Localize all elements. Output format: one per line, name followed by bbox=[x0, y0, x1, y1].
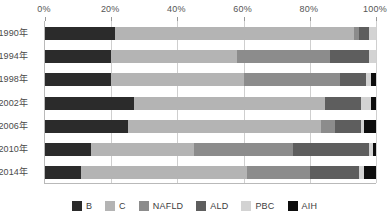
bar-segment-b bbox=[45, 120, 128, 133]
bar-segment-c bbox=[128, 120, 322, 133]
bar-segment-b bbox=[45, 97, 134, 110]
bar-segment-ald bbox=[359, 27, 369, 40]
bar-row: 1994年 bbox=[45, 50, 376, 63]
stacked-bar bbox=[45, 97, 376, 110]
x-tick-label: 20% bbox=[101, 4, 120, 14]
bar-segment-nafld bbox=[247, 166, 310, 179]
bar-segment-ald bbox=[325, 97, 361, 110]
x-tick-label: 100% bbox=[363, 4, 387, 14]
bar-segment-ald bbox=[293, 143, 369, 156]
bar-segment-b bbox=[45, 166, 81, 179]
gridline bbox=[376, 21, 377, 183]
bar-segment-ald bbox=[310, 166, 360, 179]
legend-item-b[interactable]: B bbox=[72, 201, 92, 211]
x-tick-label: 60% bbox=[233, 4, 252, 14]
bar-segment-c bbox=[81, 166, 247, 179]
legend-label: B bbox=[86, 201, 92, 211]
bar-segment-c bbox=[134, 97, 324, 110]
legend-swatch-aih-icon bbox=[288, 201, 298, 211]
bar-segment-ald bbox=[330, 50, 370, 63]
y-axis-category-label: 2002年 bbox=[0, 98, 28, 109]
bar-segment-aih bbox=[371, 73, 376, 86]
bar-segment-nafld bbox=[237, 50, 330, 63]
bar-segment-ald bbox=[340, 73, 366, 86]
bar-segment-pbc bbox=[361, 97, 371, 110]
stacked-bar bbox=[45, 166, 376, 179]
y-axis-category-label: 2010年 bbox=[0, 144, 28, 155]
legend-item-pbc[interactable]: PBC bbox=[241, 201, 274, 211]
x-tick-mark bbox=[376, 17, 377, 21]
bar-row: 2006年 bbox=[45, 120, 376, 133]
x-tick-mark bbox=[244, 17, 245, 21]
bar-segment-b bbox=[45, 73, 111, 86]
y-axis-category-label: 1990年 bbox=[0, 28, 28, 39]
stacked-bar-chart: 0%20%40%60%80%100% 1990年1994年1998年2002年2… bbox=[0, 0, 389, 223]
bar-segment-pbc bbox=[369, 27, 376, 40]
legend-item-c[interactable]: C bbox=[105, 201, 126, 211]
legend-item-aih[interactable]: AIH bbox=[288, 201, 318, 211]
y-axis-category-label: 1998年 bbox=[0, 74, 28, 85]
bar-row: 1998年 bbox=[45, 73, 376, 86]
legend-label: C bbox=[119, 201, 126, 211]
x-tick-mark bbox=[45, 17, 46, 21]
bar-segment-nafld bbox=[321, 120, 334, 133]
bar-segment-b bbox=[45, 143, 91, 156]
legend-label: ALD bbox=[210, 201, 228, 211]
bar-segment-aih bbox=[364, 120, 376, 133]
x-tick-mark bbox=[310, 17, 311, 21]
plot-bottom-rule bbox=[44, 183, 376, 184]
bar-segment-nafld bbox=[194, 143, 293, 156]
bar-row: 2010年 bbox=[45, 143, 376, 156]
bar-row: 1990年 bbox=[45, 27, 376, 40]
plot-area: 1990年1994年1998年2002年2006年2010年2014年 bbox=[44, 21, 376, 183]
bar-segment-c bbox=[111, 50, 237, 63]
legend-swatch-c-icon bbox=[105, 201, 115, 211]
legend-swatch-b-icon bbox=[72, 201, 82, 211]
bar-row: 2014年 bbox=[45, 166, 376, 179]
chart-legend: BCNAFLDALDPBCAIH bbox=[0, 196, 389, 216]
x-tick-mark bbox=[177, 17, 178, 21]
stacked-bar bbox=[45, 120, 376, 133]
stacked-bar bbox=[45, 73, 376, 86]
bar-segment-aih bbox=[371, 97, 376, 110]
bar-segment-c bbox=[111, 73, 243, 86]
bar-segment-b bbox=[45, 50, 111, 63]
y-axis-category-label: 2014年 bbox=[0, 167, 28, 178]
y-axis-category-label: 2006年 bbox=[0, 121, 28, 132]
stacked-bar bbox=[45, 50, 376, 63]
bar-row: 2002年 bbox=[45, 97, 376, 110]
bar-segment-ald bbox=[335, 120, 361, 133]
legend-item-nafld[interactable]: NAFLD bbox=[139, 201, 184, 211]
bar-segment-aih bbox=[364, 166, 376, 179]
bar-segment-aih bbox=[373, 143, 376, 156]
stacked-bar bbox=[45, 143, 376, 156]
legend-label: NAFLD bbox=[153, 201, 184, 211]
x-tick-mark bbox=[111, 17, 112, 21]
legend-swatch-nafld-icon bbox=[139, 201, 149, 211]
y-axis-category-label: 1994年 bbox=[0, 51, 28, 62]
bar-segment-pbc bbox=[369, 50, 376, 63]
bar-segment-b bbox=[45, 27, 115, 40]
x-tick-label: 40% bbox=[167, 4, 186, 14]
bar-segment-c bbox=[91, 143, 194, 156]
legend-item-ald[interactable]: ALD bbox=[196, 201, 228, 211]
legend-label: PBC bbox=[255, 201, 274, 211]
legend-label: AIH bbox=[302, 201, 318, 211]
x-tick-label: 80% bbox=[299, 4, 318, 14]
bar-segment-nafld bbox=[244, 73, 340, 86]
bar-segment-c bbox=[115, 27, 355, 40]
legend-swatch-pbc-icon bbox=[241, 201, 251, 211]
stacked-bar bbox=[45, 27, 376, 40]
legend-swatch-ald-icon bbox=[196, 201, 206, 211]
x-tick-label: 0% bbox=[37, 4, 50, 14]
